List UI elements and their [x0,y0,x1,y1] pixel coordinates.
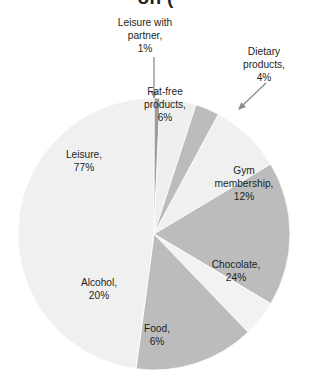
pie-chart-figure: on ( Leisure with partner, 1% Dietary pr… [0,0,311,392]
pie-chart-svg [0,0,311,392]
pie-slice-leisure [18,98,154,369]
dietary-products-arrow-line [243,83,266,105]
pie-slices-group [18,98,290,370]
